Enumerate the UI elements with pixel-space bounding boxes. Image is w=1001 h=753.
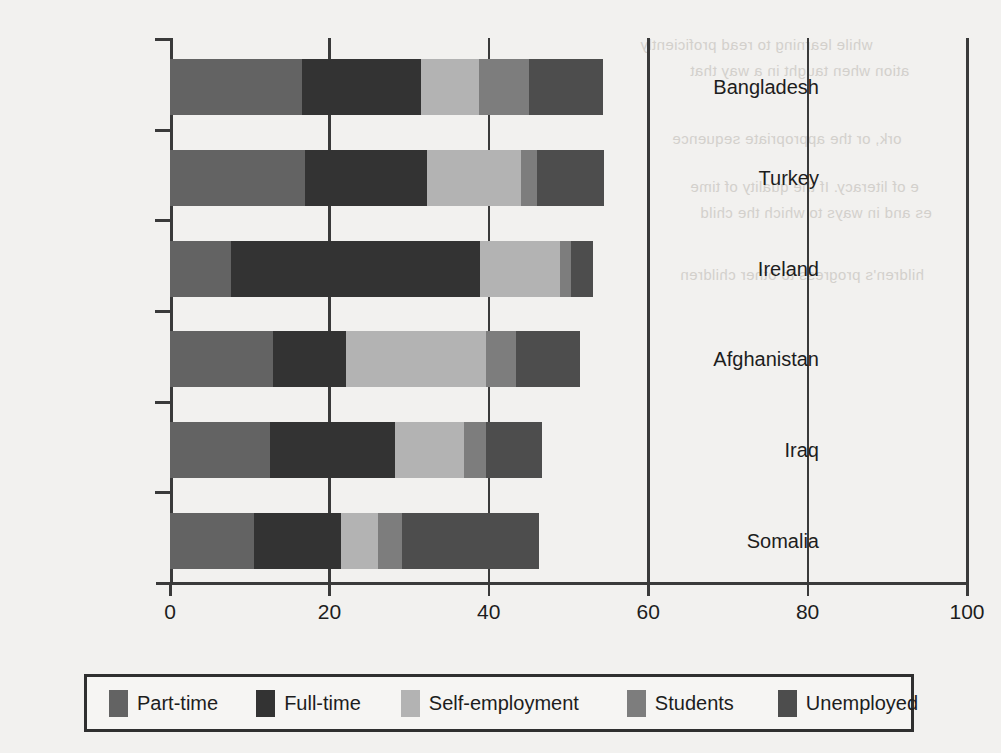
y-tick <box>155 38 171 41</box>
bar-segment-students <box>560 241 571 297</box>
y-tick <box>155 401 171 404</box>
bar-segment-full-time <box>231 241 480 297</box>
y-tick <box>155 129 171 132</box>
x-tick <box>328 582 331 596</box>
y-tick <box>155 310 171 313</box>
x-tick-label: 0 <box>164 600 176 624</box>
gridline <box>488 38 491 582</box>
bar-segment-full-time <box>305 150 426 206</box>
y-axis-label-afghanistan: Afghanistan <box>713 348 819 371</box>
bar-segment-students <box>521 150 537 206</box>
legend-label: Students <box>655 692 734 715</box>
gridline <box>647 38 650 582</box>
legend-item-unemployed[interactable]: Unemployed <box>778 690 918 717</box>
x-tick <box>488 582 491 596</box>
legend-swatch-icon <box>109 690 128 717</box>
legend-item-full-time[interactable]: Full-time <box>256 690 361 717</box>
legend-swatch-icon <box>627 690 646 717</box>
bar-somalia <box>170 513 539 569</box>
legend-label: Self-employment <box>429 692 579 715</box>
bar-bangladesh <box>170 59 603 115</box>
y-axis-label-ireland: Ireland <box>758 257 819 280</box>
legend-swatch-icon <box>778 690 797 717</box>
bar-segment-full-time <box>302 59 422 115</box>
bar-segment-unemployed <box>402 513 539 569</box>
bar-afghanistan <box>170 331 580 387</box>
y-axis-label-somalia: Somalia <box>747 529 819 552</box>
y-tick <box>155 491 171 494</box>
bar-segment-self-employment <box>395 422 464 478</box>
gridline <box>966 38 969 582</box>
bar-segment-part-time <box>170 331 273 387</box>
legend-item-part-time[interactable]: Part-time <box>109 690 218 717</box>
bar-segment-students <box>479 59 528 115</box>
x-axis <box>156 582 967 585</box>
plot-area: 020406080100 <box>170 38 967 582</box>
bar-segment-part-time <box>170 513 254 569</box>
bar-segment-students <box>464 422 486 478</box>
bar-segment-self-employment <box>427 150 522 206</box>
legend-label: Unemployed <box>806 692 918 715</box>
legend-item-students[interactable]: Students <box>627 690 734 717</box>
legend-swatch-icon <box>256 690 275 717</box>
x-tick <box>966 582 969 596</box>
bar-segment-unemployed <box>571 241 593 297</box>
gridline <box>807 38 810 582</box>
bar-segment-full-time <box>273 331 346 387</box>
x-tick <box>169 582 172 596</box>
bar-segment-self-employment <box>421 59 479 115</box>
chart-legend: Part-timeFull-timeSelf-employmentStudent… <box>84 674 914 732</box>
bar-segment-part-time <box>170 59 302 115</box>
x-tick-label: 80 <box>796 600 819 624</box>
bar-segment-full-time <box>270 422 394 478</box>
bar-iraq <box>170 422 542 478</box>
x-tick-label: 40 <box>477 600 500 624</box>
bar-segment-self-employment <box>480 241 560 297</box>
bar-segment-unemployed <box>529 59 603 115</box>
legend-label: Part-time <box>137 692 218 715</box>
bar-segment-unemployed <box>486 422 543 478</box>
bar-segment-part-time <box>170 241 231 297</box>
legend-swatch-icon <box>401 690 420 717</box>
legend-item-self-employment[interactable]: Self-employment <box>401 690 579 717</box>
bar-segment-part-time <box>170 150 305 206</box>
chart-page: while learning to read proficiently atio… <box>0 0 1001 753</box>
bar-turkey <box>170 150 604 206</box>
x-tick-label: 100 <box>949 600 984 624</box>
y-tick <box>155 219 171 222</box>
bar-segment-unemployed <box>516 331 581 387</box>
x-tick-label: 20 <box>318 600 341 624</box>
bar-segment-students <box>486 331 516 387</box>
bar-segment-unemployed <box>537 150 604 206</box>
legend-label: Full-time <box>284 692 361 715</box>
y-axis-label-turkey: Turkey <box>759 167 819 190</box>
x-tick <box>807 582 810 596</box>
y-axis-label-iraq: Iraq <box>785 439 819 462</box>
bar-segment-students <box>378 513 402 569</box>
bar-segment-self-employment <box>346 331 485 387</box>
gridline <box>328 38 331 582</box>
x-tick-label: 60 <box>637 600 660 624</box>
bar-segment-full-time <box>254 513 340 569</box>
bar-segment-self-employment <box>341 513 378 569</box>
bar-segment-part-time <box>170 422 270 478</box>
y-axis-label-bangladesh: Bangladesh <box>713 76 819 99</box>
x-tick <box>647 582 650 596</box>
bar-ireland <box>170 241 593 297</box>
